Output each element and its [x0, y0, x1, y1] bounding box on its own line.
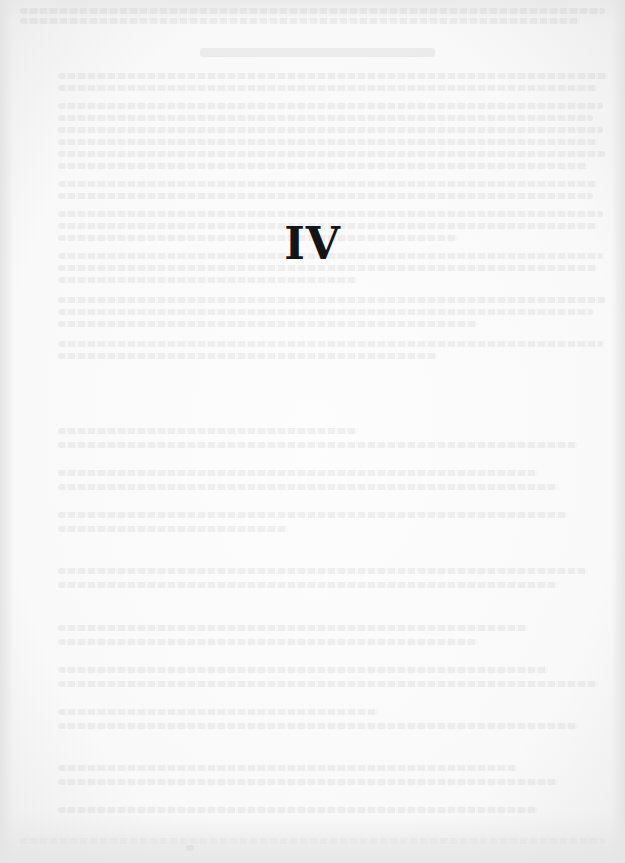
page-edge-shadow-bottom: [0, 813, 625, 863]
bleed-through-texture: [0, 0, 625, 863]
chapter-number: IV: [0, 219, 625, 269]
book-page: IV: [0, 0, 625, 863]
